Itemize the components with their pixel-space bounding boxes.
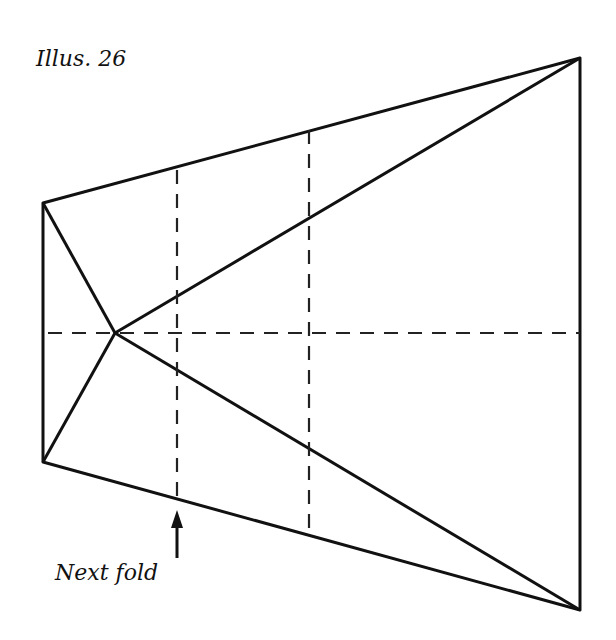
- next-fold-label: Next fold: [55, 560, 158, 585]
- fold-line-bottom-left: [43, 333, 115, 462]
- dashed-lines: [48, 130, 580, 530]
- fold-line-bottom-diagonal: [115, 333, 580, 610]
- up-arrow-icon: [171, 510, 183, 558]
- fold-line-top-left: [43, 203, 115, 333]
- fold-line-top-diagonal: [115, 58, 580, 333]
- fold-diagram: [0, 0, 616, 640]
